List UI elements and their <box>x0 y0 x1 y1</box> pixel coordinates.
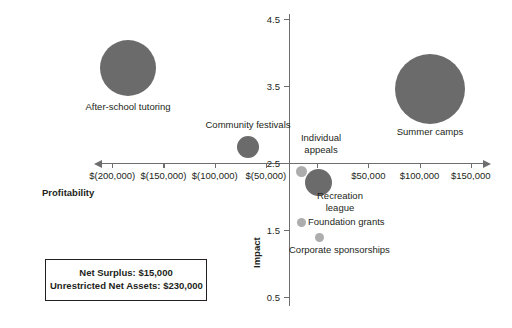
bubble-label: Corporate sponsorships <box>289 244 390 256</box>
x-axis-right-arrow-icon <box>483 160 491 168</box>
bubble-label: Summer camps <box>397 126 464 138</box>
x-axis-title: Profitability <box>42 187 94 198</box>
y-axis-tick <box>284 19 289 20</box>
summary-line-net-surplus: Net Surplus: $15,000 <box>50 267 202 280</box>
bubble-point[interactable] <box>315 233 324 242</box>
x-axis-tick <box>471 163 472 168</box>
bubble-label: After-school tutoring <box>85 101 170 113</box>
y-axis-tick <box>284 297 289 298</box>
y-axis-tick <box>284 230 289 231</box>
x-axis-tick <box>112 163 113 168</box>
y-axis-tick <box>284 86 289 87</box>
x-axis-tick-label: $(200,000) <box>89 170 135 181</box>
summary-line-unrestricted-net-assets: Unrestricted Net Assets: $230,000 <box>50 280 202 293</box>
summary-box: Net Surplus: $15,000 Unrestricted Net As… <box>45 259 207 301</box>
y-axis-tick-label: 0.5 <box>250 292 280 303</box>
bubble-chart-canvas: $(200,000)$(150,000)$(100,000)$(50,000)$… <box>0 0 512 328</box>
x-axis-line <box>100 163 485 164</box>
x-axis-tick-label: $50,000 <box>351 170 385 181</box>
x-axis-tick <box>215 163 216 168</box>
y-axis-title: Impact <box>251 237 262 268</box>
bubble-label: Recreation league <box>317 190 363 213</box>
bubble-point[interactable] <box>395 54 465 124</box>
x-axis-tick-label: $(150,000) <box>141 170 187 181</box>
bubble-label: Community festivals <box>206 119 291 131</box>
x-axis-tick <box>368 163 369 168</box>
bubble-label: Foundation grants <box>308 216 385 228</box>
x-axis-tick-label: $150,000 <box>451 170 491 181</box>
y-axis-tick-label: 3.5 <box>250 81 280 92</box>
x-axis-tick-label: $(100,000) <box>192 170 238 181</box>
x-axis-tick-label: $(50,000) <box>246 170 287 181</box>
y-axis-tick-label: 4.5 <box>250 14 280 25</box>
y-axis-tick-label: 2.5 <box>250 158 280 169</box>
x-axis-tick <box>163 163 164 168</box>
x-axis-tick-label: $100,000 <box>400 170 440 181</box>
bubble-point[interactable] <box>100 40 156 96</box>
y-axis-tick <box>284 163 289 164</box>
y-axis-line <box>289 14 290 306</box>
x-axis-left-arrow-icon <box>94 160 102 168</box>
bubble-point[interactable] <box>297 218 306 227</box>
bubble-point[interactable] <box>237 136 259 158</box>
bubble-label: Individual appeals <box>301 132 341 155</box>
bubble-point[interactable] <box>296 166 307 177</box>
y-axis-tick-label: 1.5 <box>250 225 280 236</box>
x-axis-tick <box>317 163 318 168</box>
x-axis-tick <box>420 163 421 168</box>
